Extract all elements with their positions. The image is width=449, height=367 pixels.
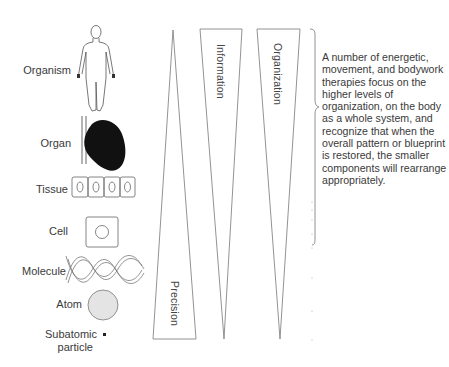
wedge-label-precision: Precision (169, 281, 181, 326)
label-organ: Organ (40, 137, 71, 150)
wedge-label-organization: Organization (272, 43, 284, 105)
cell-icon (86, 217, 118, 247)
label-molecule: Molecule (22, 265, 66, 278)
annotation-text: A number of energetic, movement, and bod… (322, 51, 447, 186)
label-subatomic: Subatomic (45, 328, 97, 341)
label-tissue: Tissue (36, 183, 68, 196)
curly-brace (310, 29, 319, 245)
label-organism: Organism (23, 64, 71, 77)
label-atom: Atom (56, 298, 82, 311)
tissue-icon (72, 177, 135, 197)
wedge-label-information: Information (215, 44, 227, 99)
heart-icon (84, 116, 125, 171)
human-body-icon (77, 26, 115, 112)
dna-helix-icon (66, 256, 144, 284)
label-particle: particle (58, 341, 93, 354)
subatomic-particle-icon (103, 333, 106, 336)
dotted-marks (311, 201, 312, 340)
label-cell: Cell (49, 225, 68, 238)
atom-icon (88, 290, 118, 320)
